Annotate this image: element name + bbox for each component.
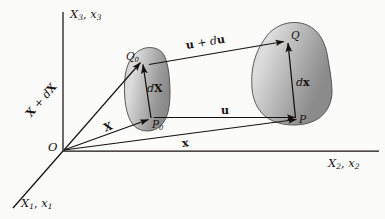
vector-label-dX-main: X [154, 82, 163, 95]
axis-label-x1: X1, x1 [21, 198, 53, 210]
vector-label-dx-prefix: d [296, 76, 303, 89]
axis-label-x2-main: X [328, 156, 336, 170]
point-label-P0-sub: 0 [159, 124, 163, 132]
point-label-P-main: P [299, 113, 306, 125]
point-label-Q0: Q0 [126, 51, 139, 63]
vector-label-dx-main: x [303, 76, 310, 89]
figure-canvas: X3, x3 X2, x2 X1, x1 O Q0 P0 Q P X + dX … [0, 0, 385, 219]
axis-label-x1-main: X [21, 196, 29, 210]
point-label-Q: Q [291, 30, 300, 41]
axis-label-x2: X2, x2 [328, 158, 360, 170]
point-label-P0: P0 [152, 119, 163, 131]
vector-label-x: x [181, 137, 189, 149]
origin-label: O [48, 142, 57, 154]
vector-label-dX: dX [147, 83, 163, 94]
point-label-Q0-main: Q [126, 50, 135, 62]
axis-label-x3: X3, x3 [70, 9, 102, 21]
axis-label-x1-alt-sub: 1 [48, 202, 53, 211]
vector-x-arrow [64, 120, 297, 151]
vector-label-dx: dx [296, 77, 310, 88]
point-label-P: P [299, 114, 306, 125]
vector-label-u: u [221, 105, 229, 116]
point-label-Q0-sub: 0 [135, 56, 139, 64]
axis-label-x2-alt-sub: 2 [355, 162, 360, 171]
deformation-diagram-svg [0, 0, 385, 219]
point-label-Q-main: Q [291, 29, 300, 41]
axis-label-x3-alt-sub: 3 [97, 13, 102, 22]
axis-label-x3-main: X [70, 7, 78, 21]
vector-label-dX-prefix: d [147, 82, 154, 95]
